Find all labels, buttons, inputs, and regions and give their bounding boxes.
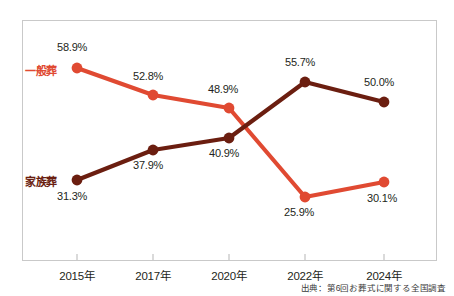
value-label-family-2015: 31.3%: [57, 190, 87, 202]
value-label-general-2017: 52.8%: [133, 70, 163, 82]
x-tick-label-2015: 2015年: [47, 267, 107, 283]
x-axis-ticks: [77, 254, 384, 260]
x-tick-label-2017: 2017年: [123, 267, 183, 283]
x-tick-label-2020: 2020年: [199, 267, 259, 283]
value-label-family-2022: 55.7%: [285, 56, 315, 68]
value-label-general-2022: 25.9%: [284, 206, 314, 218]
value-label-general-2024: 30.1%: [367, 192, 397, 204]
series-label-family: 家族葬: [25, 173, 57, 189]
value-label-general-2020: 48.9%: [208, 83, 238, 95]
value-label-family-2017: 37.9%: [133, 159, 163, 171]
value-label-family-2024: 50.0%: [364, 76, 394, 88]
chart-page: 一般葬 家族葬 58.9% 52.8% 48.9% 25.9% 30.1% 31…: [0, 0, 454, 296]
series-label-general: 一般葬: [25, 62, 57, 78]
source-note: 出典：第6回お葬式に関する全国調査: [301, 281, 446, 293]
value-label-general-2015: 58.9%: [57, 41, 87, 53]
series-line-family: [77, 82, 384, 180]
value-label-family-2020: 40.9%: [209, 147, 239, 159]
